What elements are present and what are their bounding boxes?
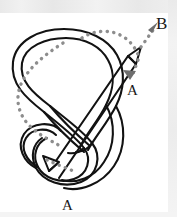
- label-a-right: A: [127, 83, 138, 98]
- label-b: B: [156, 15, 167, 32]
- knot-drawing: [0, 0, 177, 217]
- label-a-bottom: A: [62, 198, 73, 213]
- ribbon-band: [13, 29, 136, 189]
- knot-diagram-figure: B A A: [0, 0, 177, 217]
